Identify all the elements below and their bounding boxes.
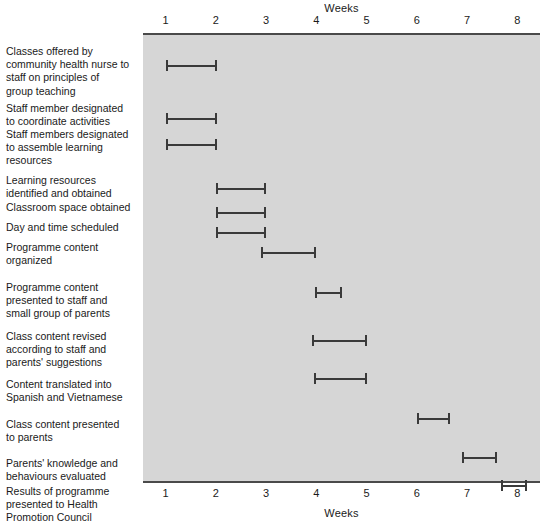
bottom-tick-label-3: 3 xyxy=(263,487,269,499)
gantt-bar xyxy=(166,113,217,124)
task-label: Staff members designatedto assemble lear… xyxy=(6,128,138,168)
bottom-tick-label-1: 1 xyxy=(163,487,169,499)
task-label-line: presented to Health xyxy=(6,498,138,511)
task-label: Staff member designatedto coordinate act… xyxy=(6,102,138,128)
gantt-chart: Weeks 12345678 Classes offered bycommuni… xyxy=(0,0,554,525)
task-label: Parents' knowledge andbehaviours evaluat… xyxy=(6,457,138,483)
task-label-line: Classroom space obtained xyxy=(6,201,138,214)
task-label-line: Staff member designated xyxy=(6,102,138,115)
gantt-bar-line xyxy=(314,378,367,380)
bottom-tick-label-6: 6 xyxy=(414,487,420,499)
gantt-bar-line xyxy=(166,65,217,67)
gantt-bar-line xyxy=(216,188,266,190)
task-label-line: to parents xyxy=(6,431,138,444)
top-tick-label-7: 7 xyxy=(464,14,470,26)
gantt-bar-start-cap xyxy=(314,373,316,384)
task-label-line: Results of programme xyxy=(6,485,138,498)
gantt-bar-start-cap xyxy=(312,335,314,346)
task-label: Programme contentpresented to staff ands… xyxy=(6,281,138,321)
gantt-bar xyxy=(216,227,266,238)
bottom-tick-label-4: 4 xyxy=(313,487,319,499)
task-label-line: Programme content xyxy=(6,281,138,294)
task-label-line: behaviours evaluated xyxy=(6,470,138,483)
task-label-line: small group of parents xyxy=(6,307,138,320)
gantt-bar xyxy=(312,335,366,346)
task-label: Class content presentedto parents xyxy=(6,418,138,444)
gantt-bar-start-cap xyxy=(315,287,317,298)
gantt-bar-line xyxy=(216,212,266,214)
task-label-line: to coordinate activities xyxy=(6,115,138,128)
gantt-bar-start-cap xyxy=(462,452,464,463)
plot-area xyxy=(143,33,540,483)
top-axis-title: Weeks xyxy=(143,2,540,14)
task-label-line: Class content presented xyxy=(6,418,138,431)
task-label-line: staff on principles of xyxy=(6,71,138,84)
gantt-bar xyxy=(166,60,217,71)
top-tick-label-3: 3 xyxy=(263,14,269,26)
gantt-bar-start-cap xyxy=(166,139,168,150)
gantt-bar-line xyxy=(462,457,497,459)
bottom-tick-label-2: 2 xyxy=(213,487,219,499)
gantt-bar-line xyxy=(417,418,450,420)
task-label-line: identified and obtained xyxy=(6,187,138,200)
task-label-line: resources xyxy=(6,154,138,167)
task-label-line: organized xyxy=(6,254,138,267)
top-tick-label-8: 8 xyxy=(514,14,520,26)
gantt-bar xyxy=(314,373,367,384)
gantt-bar xyxy=(417,413,450,424)
gantt-bar-start-cap xyxy=(216,183,218,194)
gantt-bar-end-cap xyxy=(215,113,217,124)
task-label: Learning resourcesidentified and obtaine… xyxy=(6,174,138,200)
gantt-bar xyxy=(166,139,217,150)
task-label-line: to assemble learning xyxy=(6,141,138,154)
gantt-bar-line xyxy=(312,340,366,342)
task-label-line: Learning resources xyxy=(6,174,138,187)
task-label-line: presented to staff and xyxy=(6,294,138,307)
task-label: Programme contentorganized xyxy=(6,241,138,267)
task-label-line: Content translated into xyxy=(6,378,138,391)
gantt-bar xyxy=(216,207,266,218)
gantt-bar-line xyxy=(166,118,217,120)
gantt-bar-line xyxy=(166,144,217,146)
top-tick-label-6: 6 xyxy=(414,14,420,26)
gantt-bar-end-cap xyxy=(365,335,367,346)
gantt-bar-end-cap xyxy=(215,60,217,71)
top-axis-tick-row: 12345678 xyxy=(143,14,540,30)
gantt-bar-start-cap xyxy=(166,113,168,124)
task-label-line: Staff members designated xyxy=(6,128,138,141)
task-label-line: Class content revised xyxy=(6,330,138,343)
task-label: Class content revisedaccording to staff … xyxy=(6,330,138,370)
gantt-bar-end-cap xyxy=(264,183,266,194)
gantt-bar-start-cap xyxy=(216,207,218,218)
gantt-bar-end-cap xyxy=(495,452,497,463)
top-tick-label-2: 2 xyxy=(213,14,219,26)
gantt-bar xyxy=(261,247,316,258)
gantt-bar-start-cap xyxy=(166,60,168,71)
gantt-bar-end-cap xyxy=(365,373,367,384)
gantt-bar-line xyxy=(315,292,342,294)
top-tick-label-5: 5 xyxy=(364,14,370,26)
task-label: Day and time scheduled xyxy=(6,221,138,234)
top-tick-label-1: 1 xyxy=(163,14,169,26)
gantt-bar-line xyxy=(261,252,316,254)
gantt-bar-end-cap xyxy=(264,227,266,238)
gantt-bar xyxy=(462,452,497,463)
task-label: Classroom space obtained xyxy=(6,201,138,214)
task-label-line: group teaching xyxy=(6,85,138,98)
gantt-bar-end-cap xyxy=(314,247,316,258)
task-label-line: parents' suggestions xyxy=(6,356,138,369)
task-label-column: Classes offered bycommunity health nurse… xyxy=(0,33,139,483)
bottom-tick-label-7: 7 xyxy=(464,487,470,499)
gantt-bar-start-cap xyxy=(216,227,218,238)
task-label-line: community health nurse to xyxy=(6,58,138,71)
top-tick-label-4: 4 xyxy=(313,14,319,26)
bottom-axis-title: Weeks xyxy=(143,507,540,519)
gantt-bar-end-cap xyxy=(448,413,450,424)
gantt-bar-start-cap xyxy=(417,413,419,424)
gantt-bar-end-cap xyxy=(340,287,342,298)
task-label-line: Programme content xyxy=(6,241,138,254)
task-label-line: Parents' knowledge and xyxy=(6,457,138,470)
task-label-line: according to staff and xyxy=(6,343,138,356)
task-label-line: Spanish and Vietnamese xyxy=(6,391,138,404)
gantt-bar-start-cap xyxy=(261,247,263,258)
